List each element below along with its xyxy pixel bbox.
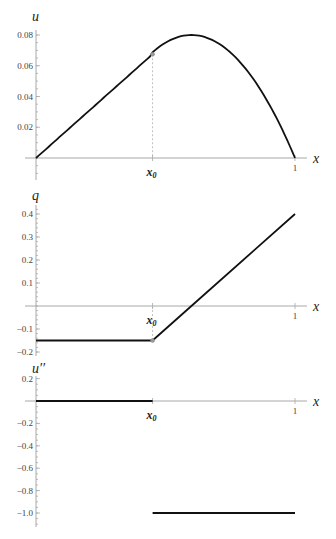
x-axis-label: x bbox=[312, 299, 320, 314]
y-axis-label: q bbox=[32, 188, 39, 203]
x0-label: x0 bbox=[146, 313, 157, 328]
x0-label: x0 bbox=[146, 165, 157, 180]
y-tick-label: −0.6 bbox=[17, 463, 34, 473]
y-tick-label: −0.2 bbox=[17, 418, 33, 428]
x-axis-label: x bbox=[312, 394, 320, 409]
chart-figure: 0.020.040.060.081xux0 −0.2−0.10.10.20.30… bbox=[0, 0, 336, 539]
y-tick-label: 0.1 bbox=[22, 278, 33, 288]
y-tick-label: 0.2 bbox=[22, 255, 33, 265]
y-tick-label: 0.3 bbox=[22, 232, 34, 242]
series-q-line bbox=[36, 214, 295, 341]
y-tick-label: −0.1 bbox=[17, 324, 33, 334]
y-axis-label: u′′ bbox=[32, 361, 46, 376]
y-tick-label: −0.8 bbox=[17, 486, 34, 496]
y-tick-label: −0.2 bbox=[17, 347, 33, 357]
y-tick-label: −0.4 bbox=[17, 441, 34, 451]
y-axis-label: u bbox=[32, 9, 39, 24]
x-tick-label-1: 1 bbox=[293, 406, 298, 416]
x0-label: x0 bbox=[146, 408, 157, 423]
x0-point-marker bbox=[151, 52, 155, 56]
y-tick-label: −1.0 bbox=[17, 508, 34, 518]
panel-q: −0.2−0.10.10.20.30.41xqx0 bbox=[17, 188, 320, 357]
y-tick-label: 0.04 bbox=[17, 92, 33, 102]
x-tick-label-1: 1 bbox=[293, 311, 298, 321]
y-tick-label: 0.4 bbox=[22, 209, 34, 219]
y-tick-label: 0.06 bbox=[17, 61, 33, 71]
panel-u-second-derivative: −1.0−0.8−0.6−0.4−0.20.21xu′′x0 bbox=[17, 361, 320, 527]
y-tick-label: 0.08 bbox=[17, 30, 33, 40]
y-tick-label: 0.02 bbox=[17, 122, 33, 132]
x-tick-label-1: 1 bbox=[293, 163, 298, 173]
panel-u: 0.020.040.060.081xux0 bbox=[17, 9, 320, 180]
series-u-line bbox=[36, 35, 295, 158]
x-axis-label: x bbox=[312, 151, 320, 166]
x0-point-marker bbox=[151, 339, 155, 343]
